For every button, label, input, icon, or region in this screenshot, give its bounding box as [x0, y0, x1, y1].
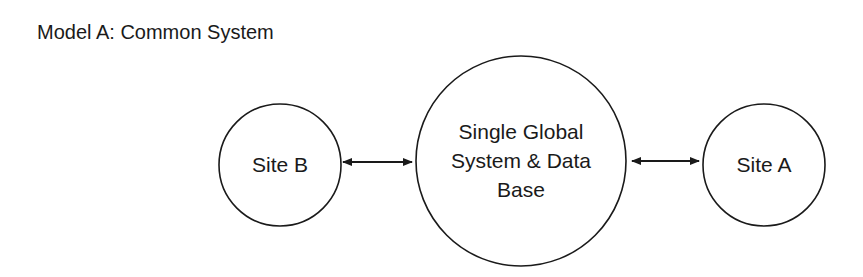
diagram-canvas: Site B Single Global System & Data Base …: [0, 0, 863, 277]
node-site-b: Site B: [219, 104, 341, 226]
node-site-a: Site A: [703, 104, 825, 226]
global-label-line-1: Single Global: [459, 120, 584, 143]
global-label-line-2: System & Data: [451, 149, 591, 172]
node-global-system: Single Global System & Data Base: [416, 56, 626, 266]
site-b-label: Site B: [252, 153, 308, 176]
global-label-line-3: Base: [497, 178, 545, 201]
site-a-label: Site A: [737, 153, 792, 176]
